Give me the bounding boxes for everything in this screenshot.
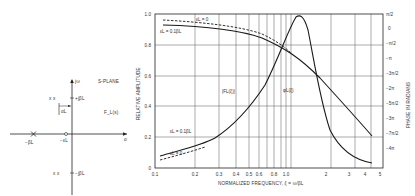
- neg-betaL-label: −βL: [25, 140, 34, 145]
- svg-text:0.4: 0.4: [233, 172, 240, 177]
- svg-text:3: 3: [348, 172, 351, 177]
- plot-frame: [155, 14, 383, 168]
- y-gridlines: [155, 45, 383, 137]
- svg-text:0.1: 0.1: [152, 172, 159, 177]
- phase-axis-ticks: π/2 0 −π/2 −π −3π/2 −2π −5π/2 −3π −7π/2 …: [386, 12, 399, 151]
- y-axis-ticks: 0 0.2 0.4 0.6 0.8 1.0: [145, 12, 152, 171]
- svg-text:−3π/2: −3π/2: [386, 71, 399, 76]
- annotation-amplitude: |FL(ξ)|: [222, 89, 235, 95]
- svg-text:−5π/2: −5π/2: [386, 101, 399, 106]
- svg-text:−3π: −3π: [386, 116, 394, 121]
- amplitude-curve: [160, 16, 372, 163]
- annotation-eps0-top: εL = 0: [196, 17, 209, 22]
- annotation-eps01-top: εL = 0.1βL: [160, 29, 182, 34]
- x-axis-label: NORMALIZED FREQUENCY, ξ = ω/βL: [218, 181, 304, 187]
- svg-text:0.8: 0.8: [271, 172, 278, 177]
- jw-arrow-icon: [70, 79, 74, 83]
- zero-circle-icon: [65, 133, 68, 136]
- x-axis-ticks: 0.1 0.2 0.3 0.4 0.5 0.6 0.8 1.0 2 3 4 5: [152, 172, 382, 177]
- svg-text:0: 0: [388, 26, 391, 31]
- pos-beta-label: +jβL: [75, 96, 85, 101]
- annotation-eps0-bottom: εL = 0: [170, 151, 183, 156]
- svg-text:0: 0: [148, 166, 151, 171]
- alpha-dimension: αL: [59, 103, 71, 115]
- jw-label: jω: [74, 79, 80, 84]
- s-plane-diagram: jω σ S-PLANE F_L(s) +jβL x x −jβL x x −β…: [10, 79, 127, 195]
- y2-axis-label: PHASE IN RADIANS: [406, 82, 411, 128]
- svg-text:−2π: −2π: [386, 86, 394, 91]
- svg-text:1.0: 1.0: [283, 172, 290, 177]
- upper-pole-pair: x x: [49, 96, 56, 101]
- sigma-label: σ: [124, 137, 127, 142]
- svg-text:−4π: −4π: [386, 146, 394, 151]
- sigma-arrow-icon: [123, 132, 127, 136]
- svg-text:0.6: 0.6: [145, 74, 152, 79]
- svg-text:0.3: 0.3: [216, 172, 223, 177]
- svg-text:0.8: 0.8: [145, 43, 152, 48]
- s-plane-title: S-PLANE: [98, 79, 119, 84]
- svg-text:2: 2: [325, 172, 328, 177]
- lower-pole-pair: x x: [53, 171, 60, 176]
- svg-text:−π/2: −π/2: [386, 41, 396, 46]
- svg-text:5: 5: [379, 172, 382, 177]
- frequency-response-chart: 0 0.2 0.4 0.6 0.8 1.0 RELATIVE AMPLITUDE…: [136, 12, 411, 187]
- figure: jω σ S-PLANE F_L(s) +jβL x x −jβL x x −β…: [0, 0, 415, 196]
- neg-eps-label: −εL: [60, 138, 68, 143]
- svg-text:0.2: 0.2: [145, 135, 152, 140]
- y-axis-label: RELATIVE AMPLITUDE: [136, 67, 141, 120]
- svg-text:4: 4: [364, 172, 367, 177]
- svg-text:−7π/2: −7π/2: [386, 131, 399, 136]
- svg-text:0.6: 0.6: [256, 172, 263, 177]
- svg-text:0.5: 0.5: [246, 172, 253, 177]
- svg-text:−π: −π: [386, 56, 392, 61]
- annotation-eps01-bottom: εL = 0.1βL: [170, 129, 192, 134]
- svg-text:0.2: 0.2: [192, 172, 199, 177]
- svg-text:0.4: 0.4: [145, 104, 152, 109]
- neg-beta-label: −jβL: [75, 171, 85, 176]
- annotation-phase: φL(ξ): [283, 88, 294, 94]
- function-label: F_L(s): [104, 110, 119, 115]
- svg-text:1.0: 1.0: [145, 12, 152, 17]
- alpha-label: αL: [61, 109, 67, 114]
- svg-text:π/2: π/2: [386, 12, 393, 17]
- phase-curve-eps0: [163, 20, 292, 54]
